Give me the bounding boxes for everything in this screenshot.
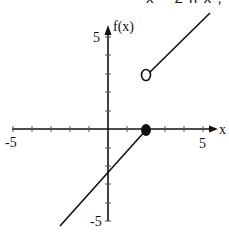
x-axis-label: x (219, 122, 226, 137)
x-max-label: 5 (199, 136, 206, 151)
piecewise-graph: -5 5 x 5 -5 f(x) (0, 0, 229, 234)
upper-line-segment (150, 13, 210, 72)
y-min-label: -5 (90, 214, 102, 229)
filled-endpoint-icon (141, 124, 151, 136)
y-axis-label: f(x) (113, 19, 134, 35)
open-endpoint-icon (142, 70, 151, 81)
y-max-label: 5 (93, 30, 100, 45)
x-min-label: -5 (5, 135, 17, 150)
y-axis (105, 25, 112, 221)
x-axis-arrow-icon (209, 126, 218, 133)
y-axis-arrow-icon (105, 25, 112, 35)
lower-line-segment (60, 130, 146, 226)
x-axis (12, 126, 218, 133)
